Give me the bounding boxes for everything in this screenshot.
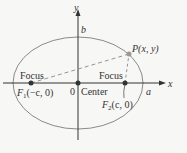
f1-coords: (−c, 0) [27, 87, 54, 99]
center-point [76, 81, 81, 86]
ellipse-diagram: y x b a 0 Center Focus Focus P(x, y) F1(… [0, 0, 187, 153]
point-p-label: P(x, y) [131, 43, 159, 55]
focus-f2-point [123, 81, 128, 86]
focus-right-label: Focus [99, 70, 123, 81]
y-axis-label: y [73, 2, 79, 13]
focus-left-label: Focus [20, 70, 44, 81]
f2-leader-line [124, 84, 125, 98]
x-axis-arrow-icon [159, 81, 166, 86]
b-label: b [81, 24, 86, 35]
center-label: Center [81, 86, 108, 97]
f1-label: F1(−c, 0) [16, 87, 53, 100]
f2-label: F2(c, 0) [101, 99, 133, 112]
a-label: a [146, 86, 151, 97]
x-axis-label: x [167, 78, 173, 89]
dashed-line-f2-p [125, 54, 129, 83]
origin-label: 0 [70, 86, 75, 97]
focus-f1-point [29, 81, 34, 86]
point-p [127, 52, 132, 57]
f2-coords: (c, 0) [112, 99, 133, 111]
